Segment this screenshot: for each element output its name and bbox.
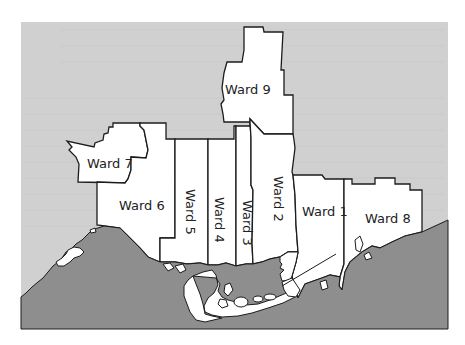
map-canvas: Ward 9 Ward 7 Ward 6 Ward 1 Ward 8 Ward …	[0, 0, 465, 345]
ward-7-label: Ward 7	[87, 156, 133, 171]
ward-2-label: Ward 2	[271, 176, 286, 222]
ward-9-label: Ward 9	[225, 82, 271, 97]
island-lagoon-3	[264, 294, 276, 300]
island-lagoon-2	[253, 296, 263, 302]
ward-6-label: Ward 6	[119, 198, 165, 213]
ward-4-region[interactable]	[208, 126, 236, 266]
ward-map: Ward 9 Ward 7 Ward 6 Ward 1 Ward 8 Ward …	[0, 0, 465, 345]
ward-3-label: Ward 3	[240, 200, 255, 246]
ward-8-label: Ward 8	[365, 211, 411, 226]
island-lagoon-1	[234, 297, 248, 307]
ward-5-label: Ward 5	[183, 189, 198, 235]
island-harbour-east	[320, 280, 328, 290]
ward-4-label: Ward 4	[212, 197, 227, 243]
ward-1-label: Ward 1	[302, 204, 348, 219]
